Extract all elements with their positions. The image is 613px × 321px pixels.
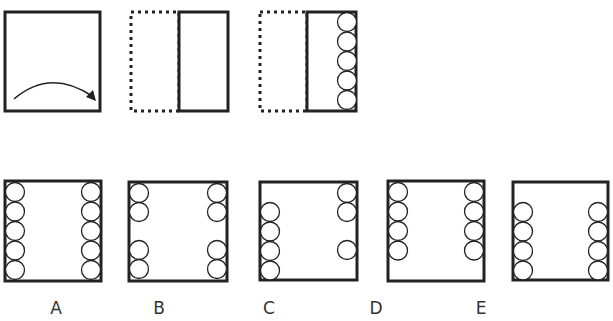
hole-circle-icon [261,261,280,280]
hole-circle-icon [389,202,408,221]
hole-circle-icon [514,222,533,241]
hole-circle-icon [130,241,149,260]
option-label-a[interactable]: A [41,298,71,318]
hole-circle-icon [6,183,25,202]
step-2-folded [131,12,228,111]
hole-circle-icon [338,184,357,203]
hole-circle-icon [82,241,101,260]
hole-circle-icon [389,241,408,260]
hole-circle-icon [589,203,608,222]
option-label-e[interactable]: E [466,298,496,318]
hole-circle-icon [208,203,227,222]
hole-circle-icon [589,222,608,241]
hole-circle-icon [6,222,25,241]
hole-circle-icon [465,222,484,241]
hole-circle-icon [6,202,25,221]
hole-circle-icon [465,241,484,260]
hole-circle-icon [82,202,101,221]
hole-circle-icon [514,203,533,222]
hole-circle-icon [130,203,149,222]
hole-circle-icon [514,242,533,261]
hole-circle-icon [208,184,227,203]
hole-circle-icon [261,203,280,222]
hole-circle-icon [338,241,357,260]
hole-circle-icon [82,261,101,280]
hole-circle-icon [261,222,280,241]
hole-circle-icon [208,241,227,260]
hole-circle-icon [465,183,484,202]
hole-circle-icon [465,202,484,221]
option-label-c[interactable]: C [254,298,284,318]
option-c[interactable] [260,182,357,280]
hole-circle-icon [338,52,357,71]
hole-circle-icon [514,261,533,280]
hole-circle-icon [6,241,25,260]
option-b[interactable] [129,182,227,281]
hole-circle-icon [589,242,608,261]
step-1-square [5,12,100,111]
hole-circle-icon [389,222,408,241]
step-3-punched [260,12,357,111]
hole-circle-icon [6,261,25,280]
hole-circle-icon [130,260,149,279]
option-label-d[interactable]: D [361,298,391,318]
hole-circle-icon [82,183,101,202]
hole-circle-icon [338,13,357,32]
answer-options [5,181,608,281]
hole-circle-icon [338,71,357,90]
hole-circle-icon [338,91,357,110]
question-figures [0,0,613,321]
hole-circle-icon [208,260,227,279]
hole-circle-icon [589,261,608,280]
option-e[interactable] [513,182,608,280]
option-label-b[interactable]: B [144,298,174,318]
hole-circle-icon [130,184,149,203]
hole-circle-icon [82,222,101,241]
option-a[interactable] [5,181,101,281]
hole-circle-icon [389,183,408,202]
hole-circle-icon [261,242,280,261]
hole-circle-icon [338,203,357,222]
hole-circle-icon [338,32,357,51]
option-d[interactable] [388,181,484,281]
